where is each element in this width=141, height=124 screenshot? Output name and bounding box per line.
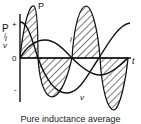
x-axis-label-t: t: [132, 56, 135, 66]
tick-plus: +: [12, 20, 17, 29]
voltage-label: v: [80, 93, 85, 102]
waveform-diagram: P / i v + 0 - t P i v: [0, 0, 141, 124]
tick-minus: -: [14, 85, 17, 94]
y-axis-label-v: v: [3, 41, 8, 50]
power-label: P: [38, 1, 44, 11]
tick-zero: 0: [12, 54, 17, 63]
current-label: i: [70, 35, 72, 44]
diagram-caption: Pure inductance average: [0, 114, 141, 124]
